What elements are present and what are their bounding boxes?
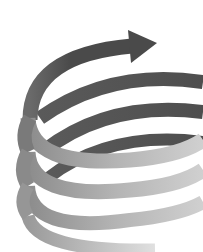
arrowhead-icon	[128, 30, 157, 63]
spiral-arrow-image	[0, 0, 203, 252]
spiral-arrow-graphic	[0, 0, 203, 252]
coil-left-edges	[23, 118, 30, 216]
